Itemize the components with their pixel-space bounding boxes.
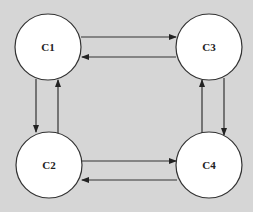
node-label: C1 <box>41 41 54 53</box>
node-c1: C1 <box>15 14 81 80</box>
state-diagram: C1 C2 C3 C4 <box>0 0 253 212</box>
node-c4: C4 <box>176 132 242 198</box>
node-c2: C2 <box>16 132 82 198</box>
node-label: C4 <box>202 159 216 171</box>
node-label: C2 <box>42 159 56 171</box>
node-c3: C3 <box>176 14 242 80</box>
node-label: C3 <box>202 41 216 53</box>
